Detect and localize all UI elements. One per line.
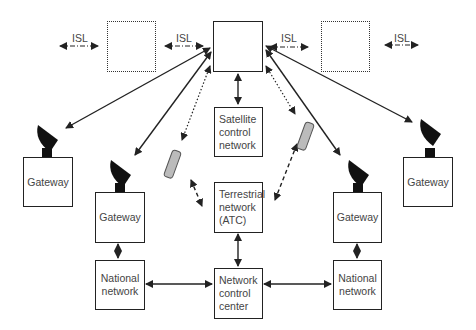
satellite-dish-icon	[420, 119, 441, 157]
network-control-center-box: Network control center	[214, 268, 263, 319]
satellite-center-box	[213, 21, 263, 72]
gateway-left-box: Gateway	[95, 192, 145, 243]
national-network-left-box: National network	[95, 260, 145, 310]
satellite-dish-icon	[348, 160, 369, 192]
satellite-left-box	[107, 21, 156, 72]
mobile-phone-icon	[163, 149, 181, 178]
isl-label: ISL	[176, 32, 192, 44]
national-network-right-box: National network	[333, 260, 382, 310]
gateway-far-right-box: Gateway	[403, 157, 453, 207]
satellite-dish-icon	[110, 160, 131, 192]
mobile-phone-icon	[296, 121, 314, 150]
isl-label: ISL	[281, 32, 297, 44]
gateway-right-box: Gateway	[333, 192, 382, 243]
terrestrial-network-box: Terrestrial network (ATC)	[214, 182, 263, 233]
satellite-right-box	[321, 21, 370, 72]
isl-label: ISL	[72, 32, 88, 44]
gateway-far-left-box: Gateway	[23, 157, 73, 207]
satellite-dish-icon	[37, 125, 58, 157]
satellite-control-network-box: Satellite control network	[214, 107, 263, 157]
isl-label: ISL	[394, 32, 410, 44]
